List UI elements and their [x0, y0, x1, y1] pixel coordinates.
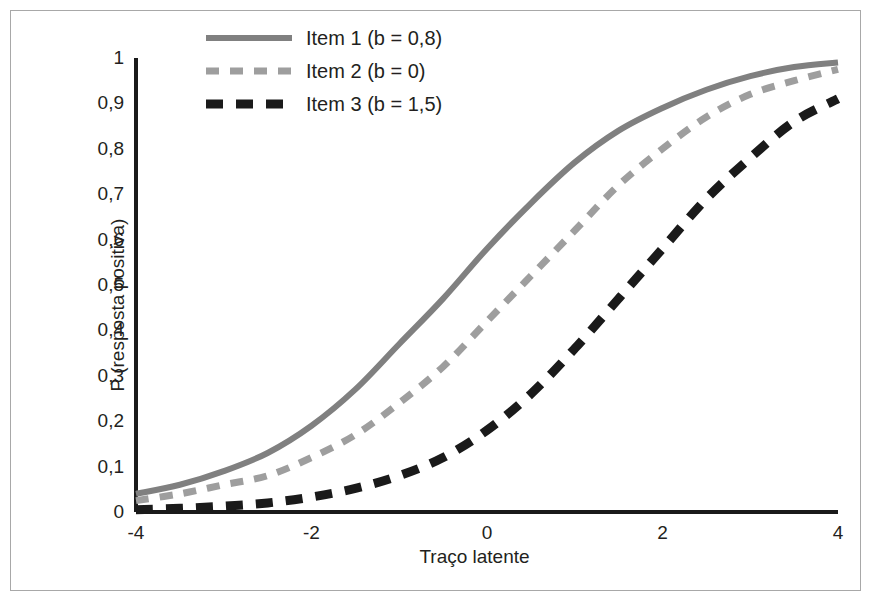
y-tick-label: 0,1 — [98, 456, 124, 478]
x-axis-label-text: Traço latente — [419, 546, 529, 568]
x-axis-label: Traço latente — [0, 546, 889, 568]
x-tick-label: 2 — [657, 522, 668, 544]
y-axis-label: P (resposta positiva) — [107, 218, 129, 391]
x-tick-label: 4 — [833, 522, 844, 544]
series-line-2 — [136, 69, 838, 500]
legend-item[interactable]: Item 2 (b = 0) — [206, 59, 442, 83]
axis-lines — [136, 58, 838, 512]
legend-label: Item 1 (b = 0,8) — [306, 28, 442, 48]
x-tick-label: 0 — [482, 522, 493, 544]
legend-label: Item 2 (b = 0) — [306, 61, 426, 81]
legend-line-swatch — [206, 31, 292, 45]
y-tick-label: 0,7 — [98, 183, 124, 205]
plot-canvas — [0, 0, 889, 609]
y-tick-label: 0,2 — [98, 410, 124, 432]
y-tick-label: 0 — [113, 501, 124, 523]
chart-legend: Item 1 (b = 0,8)Item 2 (b = 0)Item 3 (b … — [206, 26, 442, 116]
x-tick-label: -2 — [303, 522, 320, 544]
legend-label: Item 3 (b = 1,5) — [306, 94, 442, 114]
legend-line-swatch — [206, 97, 292, 111]
y-tick-label: 0,9 — [98, 92, 124, 114]
legend-item[interactable]: Item 3 (b = 1,5) — [206, 92, 442, 116]
y-tick-label: 0,8 — [98, 138, 124, 160]
data-series-group — [136, 63, 838, 510]
y-tick-label: 1 — [113, 47, 124, 69]
chart-figure: 00,10,20,30,40,50,60,70,80,91 -4-2024 P … — [0, 0, 889, 609]
x-tick-label: -4 — [128, 522, 145, 544]
legend-item[interactable]: Item 1 (b = 0,8) — [206, 26, 442, 50]
series-line-3 — [136, 99, 838, 510]
legend-line-swatch — [206, 64, 292, 78]
